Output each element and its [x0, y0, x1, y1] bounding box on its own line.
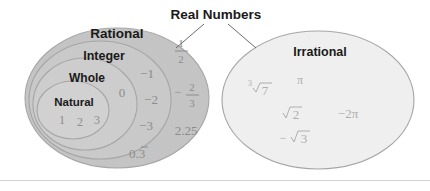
natural-set-ellipse	[37, 81, 109, 139]
irrational-set-label: Irrational	[293, 45, 347, 59]
radicand: 7	[262, 83, 269, 98]
fraction-numerator: 2	[189, 81, 195, 93]
member-natural-2: 2	[77, 115, 83, 129]
fraction-denominator: 3	[189, 97, 195, 109]
member-irrational-neg-2pi: −2π	[338, 106, 359, 121]
rational-set-label: Rational	[90, 26, 143, 41]
real-numbers-callout-label: Real Numbers	[171, 7, 262, 22]
callout-leader-line-right	[228, 24, 256, 48]
fraction-denominator: 2	[178, 53, 184, 65]
repeating-decimal-digits: 0.3	[129, 146, 145, 161]
fraction-minus-sign: −	[175, 85, 182, 99]
member-natural-3: 3	[94, 113, 100, 127]
member-irrational-pi: π	[297, 73, 303, 87]
minus-sign: −	[280, 131, 287, 145]
member-whole-zero: 0	[119, 85, 126, 100]
radicand: 3	[301, 131, 308, 146]
radical-index: 3	[248, 79, 252, 88]
natural-set-label: Natural	[54, 96, 94, 108]
venn-diagram: Rational Integer Whole Natural Irrationa…	[0, 0, 430, 191]
radicand: 2	[293, 107, 300, 122]
integer-set-label: Integer	[83, 49, 125, 63]
member-natural-1: 1	[59, 113, 65, 127]
callout-leader-line-left	[176, 24, 204, 48]
whole-set-label: Whole	[69, 71, 105, 85]
figure-canvas: Rational Integer Whole Natural Irrationa…	[0, 0, 430, 191]
member-integer-neg3: −3	[139, 118, 153, 133]
member-integer-neg1: −1	[140, 66, 154, 81]
member-rational-decimal: 2.25	[175, 123, 198, 138]
member-integer-neg2: −2	[144, 92, 158, 107]
fraction-numerator: 1	[178, 37, 184, 49]
